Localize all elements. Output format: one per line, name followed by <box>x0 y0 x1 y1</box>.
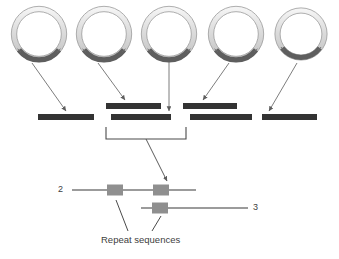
bracket-stem-arrow <box>146 139 167 181</box>
circular-dna-4[interactable] <box>208 6 263 61</box>
repeat-box-2b[interactable] <box>153 185 169 196</box>
ring-outline-inner <box>147 12 192 57</box>
chromosome-3-label: 3 <box>253 203 258 212</box>
fragment-bar-2[interactable] <box>106 103 161 109</box>
chromosome-2[interactable] <box>72 185 196 196</box>
circular-dna-1[interactable] <box>11 6 66 61</box>
ring-outline-inner <box>280 13 322 55</box>
figure-canvas: 2 3 Repeat sequences <box>0 0 339 259</box>
fragment-bar-1[interactable] <box>38 114 94 120</box>
circular-dna-3[interactable] <box>141 6 196 61</box>
ring-outline-inner <box>17 12 62 57</box>
leader-line-left <box>116 200 128 231</box>
chromosome-2-label: 2 <box>58 185 63 194</box>
circular-dna-5[interactable] <box>275 8 327 60</box>
fragment-bar-4[interactable] <box>183 103 237 109</box>
repeat-sequences-caption: Repeat sequences <box>101 235 180 245</box>
repeat-box-2a[interactable] <box>107 185 123 196</box>
arrow-c2-to-bar2 <box>98 63 125 100</box>
ring-outline-inner <box>214 12 259 57</box>
repeat-box-3a[interactable] <box>152 203 168 214</box>
consensus-bracket <box>106 127 186 139</box>
arrow-c1-to-bar1 <box>32 63 66 111</box>
ring-outline-inner <box>82 12 127 57</box>
fragment-bar-row <box>38 103 317 120</box>
arrow-c5-to-bar6 <box>269 63 297 111</box>
circular-dna-2[interactable] <box>76 6 131 61</box>
repeat-sequences-figure <box>0 0 339 259</box>
bracket-path <box>106 127 186 139</box>
fragment-bar-5[interactable] <box>190 114 252 120</box>
mapping-arrows <box>32 62 297 111</box>
chromosome-3[interactable] <box>141 203 248 214</box>
circular-dna-row <box>11 6 327 61</box>
ring-dark-arc <box>282 48 320 57</box>
fragment-bar-3[interactable] <box>111 114 171 120</box>
arrow-c4-to-bar4 <box>203 63 229 100</box>
fragment-bar-6[interactable] <box>262 114 317 120</box>
leader-line-right <box>152 216 161 231</box>
